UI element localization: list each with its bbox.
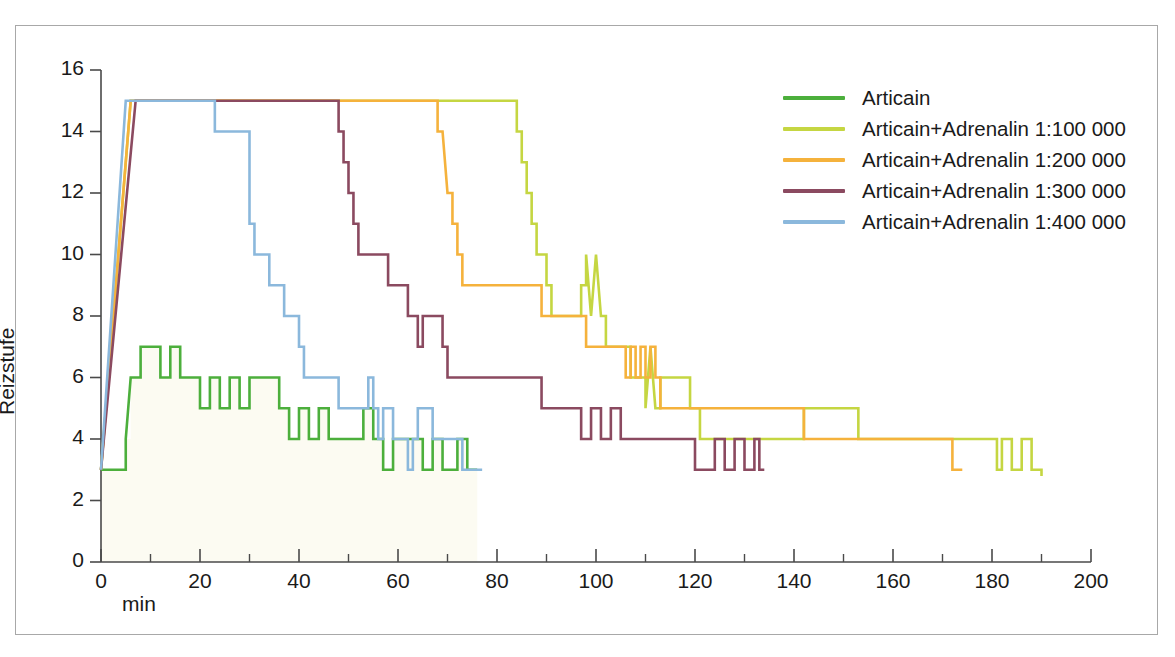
legend-label: Articain+Adrenalin 1:100 000 [862, 117, 1126, 141]
area-fill-layer [101, 347, 477, 562]
x-tick-label: 160 [853, 569, 933, 593]
legend-label: Articain [862, 86, 930, 110]
y-tick-label: 10 [6, 241, 84, 265]
x-tick-label: 120 [655, 569, 735, 593]
chart-legend: ArticainArticain+Adrenalin 1:100 000Arti… [783, 82, 1126, 237]
area-fill-articain [101, 347, 477, 562]
x-tick-label: 200 [1051, 569, 1131, 593]
legend-color-swatch [783, 158, 845, 162]
x-tick-label: 140 [754, 569, 834, 593]
legend-color-swatch [783, 96, 845, 100]
y-tick-label: 8 [6, 302, 84, 326]
legend-label: Articain+Adrenalin 1:400 000 [862, 210, 1126, 234]
y-tick-label: 16 [6, 56, 84, 80]
y-tick-label: 14 [6, 118, 84, 142]
legend-color-swatch [783, 127, 845, 131]
legend-item-0[interactable]: Articain [783, 82, 1126, 113]
legend-item-1[interactable]: Articain+Adrenalin 1:100 000 [783, 113, 1126, 144]
x-tick-label: 0 [61, 569, 141, 593]
y-tick-label: 2 [6, 487, 84, 511]
legend-color-swatch [783, 220, 845, 224]
legend-label: Articain+Adrenalin 1:300 000 [862, 179, 1126, 203]
y-tick-label: 4 [6, 425, 84, 449]
x-tick-label: 20 [160, 569, 240, 593]
x-tick-label: 100 [556, 569, 636, 593]
y-tick-label: 12 [6, 179, 84, 203]
x-tick-label: 180 [952, 569, 1032, 593]
x-tick-label: 60 [358, 569, 438, 593]
x-tick-label: 40 [259, 569, 339, 593]
y-axis-title: Reizstufe [0, 327, 19, 415]
x-axis-title: min [122, 592, 156, 616]
legend-item-3[interactable]: Articain+Adrenalin 1:300 000 [783, 175, 1126, 206]
legend-color-swatch [783, 189, 845, 193]
legend-label: Articain+Adrenalin 1:200 000 [862, 148, 1126, 172]
legend-item-2[interactable]: Articain+Adrenalin 1:200 000 [783, 144, 1126, 175]
chart-figure: 0246810121416 02040608010012014016018020… [0, 0, 1175, 657]
x-tick-label: 80 [457, 569, 537, 593]
legend-item-4[interactable]: Articain+Adrenalin 1:400 000 [783, 206, 1126, 237]
